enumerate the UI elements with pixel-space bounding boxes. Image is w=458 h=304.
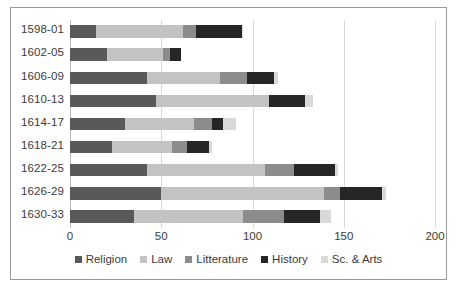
bar-segment-litterature[interactable]: [194, 118, 212, 131]
bar-segment-history[interactable]: [294, 164, 334, 177]
bar-segment-law[interactable]: [147, 164, 266, 177]
bar-segment-sc-arts[interactable]: [320, 210, 331, 223]
legend-swatch-icon: [140, 256, 147, 263]
legend-swatch-icon: [321, 256, 328, 263]
legend-swatch-icon: [185, 256, 192, 263]
bar-segment-religion[interactable]: [70, 72, 147, 85]
bar-segment-religion[interactable]: [70, 25, 96, 38]
bar-segment-sc-arts[interactable]: [382, 187, 386, 200]
bar-row[interactable]: [70, 141, 435, 154]
bar-segment-religion[interactable]: [70, 210, 134, 223]
bar-segment-law[interactable]: [161, 187, 323, 200]
legend-swatch-icon: [75, 256, 82, 263]
legend-item[interactable]: Religion: [75, 253, 128, 265]
bar-row[interactable]: [70, 187, 435, 200]
figure-caption: [0, 286, 458, 300]
bar-segment-litterature[interactable]: [163, 48, 170, 61]
category-label: 1630-33: [8, 208, 64, 220]
bar-row[interactable]: [70, 25, 435, 38]
bar-segment-law[interactable]: [96, 25, 184, 38]
category-label: 1606-09: [8, 70, 64, 82]
bar-segment-sc-arts[interactable]: [242, 25, 244, 38]
chart-frame: 1598-011602-051606-091610-131614-171618-…: [10, 7, 447, 280]
bar-segment-religion[interactable]: [70, 141, 112, 154]
category-label: 1598-01: [8, 23, 64, 35]
bar-segment-law[interactable]: [156, 95, 269, 108]
category-label: 1602-05: [8, 46, 64, 58]
bar-segment-litterature[interactable]: [324, 187, 340, 200]
bar-segment-litterature[interactable]: [172, 141, 187, 154]
bar-segment-sc-arts[interactable]: [335, 164, 339, 177]
gridline: [435, 20, 436, 228]
bar-segment-sc-arts[interactable]: [209, 141, 213, 154]
bar-segment-sc-arts[interactable]: [274, 72, 278, 85]
category-label: 1622-25: [8, 162, 64, 174]
legend-label: Law: [151, 253, 172, 265]
chart-legend: ReligionLawLitteratureHistorySc. & Arts: [11, 253, 446, 265]
value-axis: 050100150200: [70, 230, 435, 250]
bar-segment-religion[interactable]: [70, 164, 147, 177]
x-tick-label: 200: [425, 230, 444, 242]
bar-segment-law[interactable]: [107, 48, 164, 61]
bar-segment-history[interactable]: [187, 141, 209, 154]
legend-item[interactable]: Law: [140, 253, 172, 265]
bar-segment-history[interactable]: [247, 72, 274, 85]
bar-segment-religion[interactable]: [70, 187, 161, 200]
legend-item[interactable]: Sc. & Arts: [321, 253, 383, 265]
bar-row[interactable]: [70, 118, 435, 131]
legend-label: History: [272, 253, 308, 265]
legend-item[interactable]: Litterature: [185, 253, 248, 265]
bar-segment-religion[interactable]: [70, 118, 125, 131]
bar-segment-religion[interactable]: [70, 95, 156, 108]
bar-segment-history[interactable]: [284, 210, 321, 223]
category-label: 1618-21: [8, 139, 64, 151]
legend-swatch-icon: [261, 256, 268, 263]
bar-row[interactable]: [70, 164, 435, 177]
category-label: 1614-17: [8, 116, 64, 128]
legend-label: Litterature: [196, 253, 248, 265]
bar-segment-law[interactable]: [125, 118, 194, 131]
category-label: 1610-13: [8, 93, 64, 105]
bar-segment-history[interactable]: [170, 48, 181, 61]
bar-segment-sc-arts[interactable]: [223, 118, 236, 131]
bar-row[interactable]: [70, 72, 435, 85]
bar-segment-history[interactable]: [340, 187, 382, 200]
bar-segment-religion[interactable]: [70, 48, 107, 61]
bar-segment-law[interactable]: [147, 72, 220, 85]
bar-segment-litterature[interactable]: [265, 164, 294, 177]
bar-row[interactable]: [70, 210, 435, 223]
bar-row[interactable]: [70, 95, 435, 108]
bar-segment-history[interactable]: [269, 95, 306, 108]
x-tick-label: 50: [155, 230, 168, 242]
plot-area: [70, 20, 435, 228]
category-label: 1626-29: [8, 185, 64, 197]
bar-segment-litterature[interactable]: [220, 72, 247, 85]
bar-segment-sc-arts[interactable]: [305, 95, 312, 108]
legend-item[interactable]: History: [261, 253, 308, 265]
bar-segment-law[interactable]: [134, 210, 244, 223]
bar-segment-litterature[interactable]: [243, 210, 283, 223]
bar-segment-history[interactable]: [196, 25, 242, 38]
x-tick-label: 100: [243, 230, 262, 242]
bar-segment-history[interactable]: [212, 118, 223, 131]
bar-segment-law[interactable]: [112, 141, 172, 154]
bar-row[interactable]: [70, 48, 435, 61]
legend-label: Sc. & Arts: [332, 253, 383, 265]
bar-segment-litterature[interactable]: [183, 25, 196, 38]
x-tick-label: 0: [67, 230, 73, 242]
category-axis: 1598-011602-051606-091610-131614-171618-…: [11, 20, 64, 228]
legend-label: Religion: [86, 253, 128, 265]
x-tick-label: 150: [334, 230, 353, 242]
